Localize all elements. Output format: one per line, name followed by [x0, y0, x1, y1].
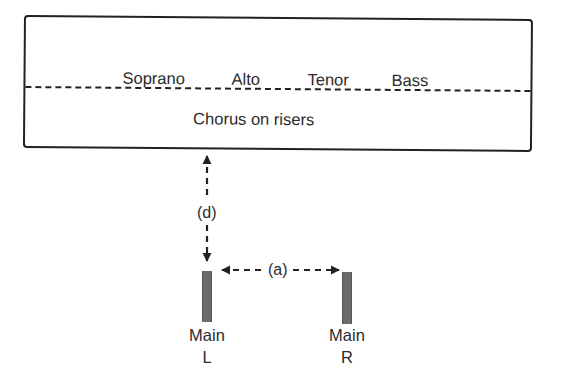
speaker-left-line1: Main — [177, 324, 237, 346]
distance-label-d: (d) — [196, 204, 218, 222]
speaker-right-line1: Main — [317, 324, 377, 346]
speaker-label-right: Main R — [317, 324, 377, 368]
distance-arrows — [0, 0, 563, 380]
speaker-main-right — [342, 272, 352, 324]
speaker-main-left — [202, 271, 212, 322]
speaker-left-line2: L — [177, 346, 237, 368]
distance-label-a: (a) — [267, 261, 289, 279]
stage-diagram: Soprano Alto Tenor Bass Chorus on risers… — [0, 0, 563, 380]
speaker-right-line2: R — [317, 346, 377, 368]
speaker-label-left: Main L — [177, 324, 237, 368]
